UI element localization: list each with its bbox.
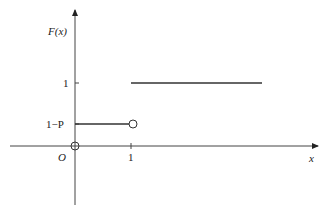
cdf-step-chart: F(x) x O 1 1 1−P bbox=[0, 0, 328, 215]
open-circle-1-1mp bbox=[129, 120, 137, 128]
y-tick-label-1: 1 bbox=[63, 77, 69, 89]
origin-label: O bbox=[58, 151, 66, 163]
x-tick-label-1: 1 bbox=[128, 151, 134, 163]
x-axis-label: x bbox=[308, 152, 314, 164]
y-axis-label: F(x) bbox=[47, 25, 67, 38]
y-tick-label-1mp: 1−P bbox=[46, 118, 64, 130]
